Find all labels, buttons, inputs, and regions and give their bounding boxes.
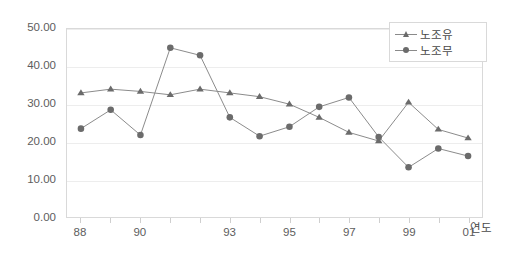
x-axis-tick-mark — [379, 218, 380, 223]
x-axis-tick-mark — [140, 218, 141, 223]
y-axis-tick-label: 10.00 — [27, 174, 56, 186]
data-point-circle — [435, 145, 442, 152]
x-axis-tick-mark — [409, 218, 410, 223]
chart-legend: 노조유 노조무 — [389, 22, 487, 62]
data-point-circle — [137, 132, 144, 139]
x-axis-tick-label: 99 — [403, 226, 416, 238]
x-axis-tick-mark — [200, 218, 201, 223]
line-chart: 0.0010.0020.0030.0040.0050.00 8890939597… — [0, 0, 508, 258]
series-line — [81, 48, 468, 168]
x-axis: 88909395979901 — [66, 218, 483, 240]
circle-marker-icon — [395, 45, 417, 57]
x-axis-tick-mark — [260, 218, 261, 223]
x-axis-tick-mark — [110, 218, 111, 223]
x-axis-title: 연도 — [470, 222, 492, 234]
data-point-circle — [78, 125, 85, 132]
data-point-circle — [405, 164, 412, 171]
x-axis-tick-mark — [80, 218, 81, 223]
data-point-circle — [316, 104, 323, 111]
data-point-circle — [286, 123, 293, 130]
x-axis-tick-label: 97 — [343, 226, 356, 238]
data-point-circle — [346, 94, 353, 101]
legend-item-series-2: 노조무 — [395, 43, 481, 59]
y-axis-tick-label: 50.00 — [27, 22, 56, 34]
data-point-circle — [375, 134, 382, 141]
y-axis-tick-label: 0.00 — [34, 212, 56, 224]
legend-label-series-1: 노조유 — [420, 29, 453, 41]
x-axis-tick-mark — [290, 218, 291, 223]
x-axis-tick-label: 95 — [283, 226, 296, 238]
series-1 — [77, 85, 471, 143]
legend-item-series-1: 노조유 — [395, 27, 481, 43]
data-point-triangle — [405, 99, 412, 105]
data-point-circle — [227, 114, 234, 121]
data-point-circle — [256, 133, 263, 140]
x-axis-tick-label: 88 — [74, 226, 87, 238]
y-axis-tick-label: 20.00 — [27, 136, 56, 148]
x-axis-tick-mark — [349, 218, 350, 223]
y-axis: 0.0010.0020.0030.0040.0050.00 — [0, 28, 62, 218]
data-point-circle — [107, 107, 114, 114]
y-axis-tick-label: 30.00 — [27, 98, 56, 110]
triangle-marker-icon — [395, 29, 417, 41]
y-axis-tick-label: 40.00 — [27, 60, 56, 72]
data-point-circle — [197, 52, 204, 59]
legend-label-series-2: 노조무 — [420, 45, 453, 57]
data-point-triangle — [196, 85, 203, 91]
x-axis-tick-mark — [170, 218, 171, 223]
series-2 — [78, 45, 472, 171]
x-axis-tick-mark — [230, 218, 231, 223]
data-point-triangle — [107, 85, 114, 91]
x-axis-tick-label: 93 — [223, 226, 236, 238]
data-point-circle — [167, 45, 174, 52]
x-axis-tick-mark — [319, 218, 320, 223]
data-point-triangle — [345, 129, 352, 135]
x-axis-tick-label: 90 — [133, 226, 146, 238]
x-axis-tick-mark — [439, 218, 440, 223]
data-point-circle — [465, 153, 472, 160]
